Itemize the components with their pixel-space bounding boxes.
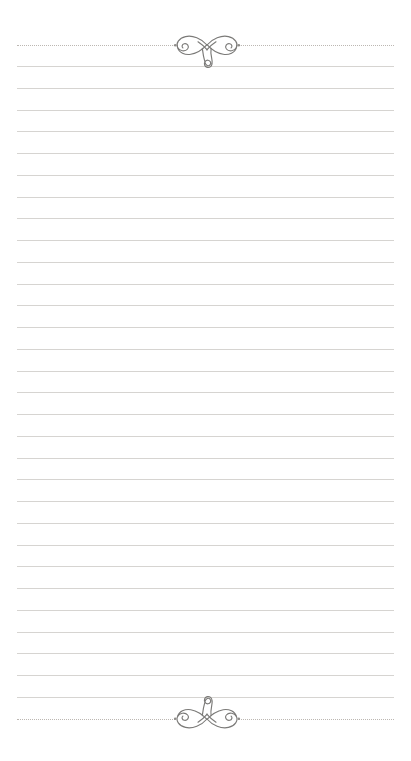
rule-line <box>17 588 394 589</box>
rule-line <box>17 414 394 415</box>
rule-line <box>17 610 394 611</box>
rule-line <box>17 131 394 132</box>
rule-line <box>17 262 394 263</box>
rule-line <box>17 66 394 67</box>
rule-line <box>17 436 394 437</box>
rule-line <box>17 284 394 285</box>
rule-line <box>17 327 394 328</box>
top-dotted-border-left <box>17 45 175 46</box>
rule-line <box>17 545 394 546</box>
rule-line <box>17 458 394 459</box>
writing-rule-lines <box>0 0 411 761</box>
rule-line <box>17 371 394 372</box>
rule-line <box>17 392 394 393</box>
flourish-ornament-bottom <box>174 694 240 732</box>
bottom-dotted-border-right <box>238 719 394 720</box>
rule-line <box>17 479 394 480</box>
rule-line <box>17 697 394 698</box>
top-dotted-border-right <box>238 45 394 46</box>
rule-line <box>17 523 394 524</box>
rule-line <box>17 88 394 89</box>
rule-line <box>17 153 394 154</box>
rule-line <box>17 240 394 241</box>
rule-line <box>17 675 394 676</box>
rule-line <box>17 305 394 306</box>
rule-line <box>17 175 394 176</box>
stationery-page <box>0 0 411 761</box>
rule-line <box>17 349 394 350</box>
rule-line <box>17 632 394 633</box>
rule-line <box>17 566 394 567</box>
rule-line <box>17 653 394 654</box>
bottom-dotted-border-left <box>17 719 175 720</box>
flourish-ornament-top <box>174 32 240 70</box>
rule-line <box>17 110 394 111</box>
rule-line <box>17 197 394 198</box>
rule-line <box>17 218 394 219</box>
rule-line <box>17 501 394 502</box>
